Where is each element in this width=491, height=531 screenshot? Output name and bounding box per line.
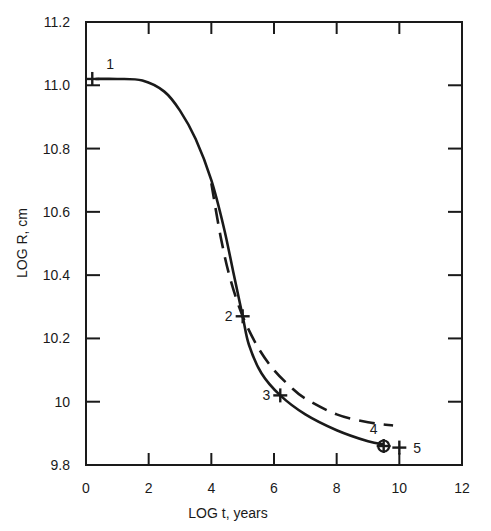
dashed-curve [211, 183, 393, 425]
y-tick-label: 10.6 [43, 204, 70, 220]
point-label: 4 [370, 421, 378, 437]
axis-ticks [86, 22, 462, 465]
y-tick-label: 9.8 [51, 457, 71, 473]
point-label: 1 [106, 56, 114, 72]
point-marker-1: 1 [85, 56, 114, 86]
x-tick-label: 10 [392, 480, 408, 496]
x-tick-label: 4 [207, 480, 215, 496]
y-tick-label: 11.2 [44, 14, 70, 30]
x-tick-label: 6 [270, 480, 278, 496]
axis-tick-labels: 0246810129.81010.210.410.610.811.011.2 [43, 14, 470, 496]
x-tick-label: 0 [82, 480, 90, 496]
point-label: 5 [413, 440, 421, 456]
plot-frame [86, 22, 462, 465]
y-tick-label: 11.0 [44, 77, 70, 93]
y-axis-label: LOG R, cm [14, 208, 30, 278]
data-series [95, 79, 393, 445]
y-tick-label: 10.8 [43, 141, 70, 157]
x-tick-label: 2 [145, 480, 153, 496]
x-tick-label: 12 [454, 480, 470, 496]
point-label: 3 [262, 387, 270, 403]
point-marker-5: 5 [392, 440, 421, 456]
point-label: 2 [225, 308, 233, 324]
x-tick-label: 8 [333, 480, 341, 496]
chart: 0246810129.81010.210.410.610.811.011.2 1… [0, 0, 491, 531]
y-tick-label: 10.4 [43, 267, 70, 283]
point-markers: 12345 [85, 56, 421, 456]
solid-curve [95, 79, 383, 445]
point-marker-2: 2 [225, 308, 250, 324]
y-tick-label: 10 [54, 394, 70, 410]
y-tick-label: 10.2 [43, 330, 70, 346]
x-axis-label: LOG t, years [188, 505, 267, 521]
